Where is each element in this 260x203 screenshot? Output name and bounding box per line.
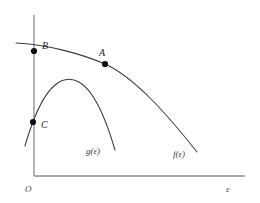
- data-point-a: [102, 61, 108, 67]
- data-point-c: [30, 119, 36, 125]
- point-label-c: C: [41, 119, 48, 130]
- x-axis-label: ε: [226, 184, 230, 194]
- curve-g: [25, 79, 115, 150]
- curve-label-f: f(ε): [173, 149, 185, 159]
- curve-f: [16, 43, 197, 152]
- plot-svg: A B C f(ε) g(ε) O ε: [0, 0, 260, 203]
- origin-label: O: [25, 184, 32, 194]
- point-label-a: A: [98, 47, 106, 58]
- curve-label-g: g(ε): [86, 146, 100, 156]
- point-label-b: B: [42, 40, 48, 51]
- figure-canvas: A B C f(ε) g(ε) O ε: [0, 0, 260, 203]
- data-point-b: [31, 48, 37, 54]
